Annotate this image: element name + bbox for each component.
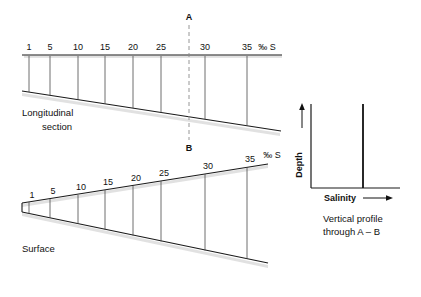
longitudinal-label-5: 5 — [47, 42, 52, 52]
surface-label-10: 10 — [76, 182, 86, 192]
surface-lower-shadow — [22, 213, 268, 268]
ab-transect: A B — [186, 12, 193, 153]
longitudinal-label-1: 1 — [26, 42, 31, 52]
surface-upper-boundary — [22, 164, 268, 203]
surface-caption: Surface — [22, 243, 55, 254]
figure-container: 1 5 10 15 20 25 30 35 ‰ S Longitudinal s… — [0, 0, 421, 297]
vertical-profile-inset: Depth Salinity Vertical profile through … — [294, 103, 400, 237]
longitudinal-unit-label: ‰ S — [258, 42, 276, 52]
surface-plan-diagram: 1 5 10 15 20 25 30 35 ‰ S Surface — [22, 150, 281, 268]
longitudinal-caption-line2: section — [42, 121, 72, 132]
longitudinal-label-30: 30 — [200, 42, 210, 52]
surface-label-30: 30 — [203, 161, 213, 171]
longitudinal-section-diagram: 1 5 10 15 20 25 30 35 ‰ S Longitudinal s… — [22, 42, 282, 136]
surface-label-5: 5 — [50, 186, 55, 196]
salinity-arrow-head — [386, 195, 393, 201]
longitudinal-label-25: 25 — [156, 42, 166, 52]
longitudinal-label-20: 20 — [128, 42, 138, 52]
point-b-label: B — [186, 143, 193, 153]
longitudinal-label-35: 35 — [242, 42, 252, 52]
surface-label-25: 25 — [159, 168, 169, 178]
surface-label-15: 15 — [103, 177, 113, 187]
surface-unit-label: ‰ S — [263, 150, 281, 160]
surface-label-35: 35 — [245, 154, 255, 164]
surface-upper-shadow — [22, 165, 268, 207]
surface-label-1: 1 — [29, 190, 34, 200]
longitudinal-label-15: 15 — [100, 42, 110, 52]
profile-y-axis-label: Depth — [294, 152, 304, 178]
longitudinal-label-10: 10 — [73, 42, 83, 52]
longitudinal-surface-shadow — [24, 56, 282, 58]
surface-lower-boundary — [22, 212, 268, 263]
longitudinal-caption-line1: Longitudinal — [22, 107, 73, 118]
profile-x-axis-label: Salinity — [324, 193, 356, 203]
depth-arrow-head — [299, 103, 305, 110]
profile-caption-line1: Vertical profile — [323, 213, 383, 224]
surface-label-20: 20 — [131, 173, 141, 183]
point-a-label: A — [186, 12, 193, 22]
profile-caption-line2: through A – B — [323, 226, 380, 237]
